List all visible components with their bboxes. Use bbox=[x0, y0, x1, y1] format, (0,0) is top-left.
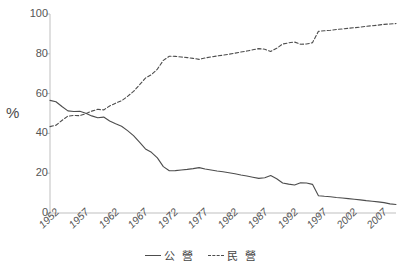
x-tick-label: 1952 bbox=[36, 205, 61, 230]
x-tick-label: 1967 bbox=[125, 205, 150, 230]
x-tick-label: 1987 bbox=[245, 205, 270, 230]
line-chart: % 100806040200 1952195719621967197219771… bbox=[0, 0, 403, 268]
legend-label: 民 營 bbox=[227, 247, 258, 263]
legend-item[interactable]: 民 營 bbox=[208, 247, 258, 263]
x-tick-label: 2002 bbox=[334, 205, 359, 230]
chart-legend: 公 營民 營 bbox=[0, 244, 403, 266]
x-tick-label: 1972 bbox=[155, 205, 180, 230]
dashed-line-icon bbox=[208, 255, 224, 256]
x-tick-label: 1957 bbox=[66, 205, 91, 230]
legend-item[interactable]: 公 營 bbox=[145, 247, 195, 263]
x-tick-label: 1982 bbox=[215, 205, 240, 230]
x-tick-label: 1992 bbox=[275, 205, 300, 230]
solid-line-icon bbox=[145, 255, 161, 256]
x-tick-label: 1997 bbox=[304, 205, 329, 230]
x-axis-tick-labels: 1952195719621967197219771982198719921997… bbox=[0, 0, 403, 268]
x-tick-label: 2007 bbox=[364, 205, 389, 230]
x-tick-label: 1962 bbox=[96, 205, 121, 230]
legend-label: 公 營 bbox=[164, 247, 195, 263]
x-tick-label: 1977 bbox=[185, 205, 210, 230]
